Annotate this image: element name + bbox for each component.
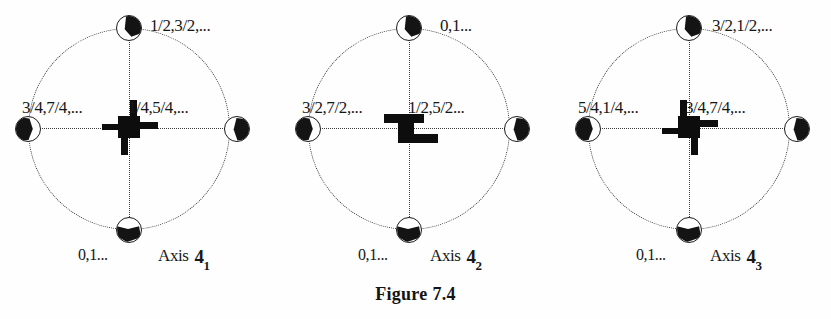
node-right [504, 116, 530, 142]
axis-caption-number: 41 [192, 246, 209, 267]
node-fill [397, 16, 421, 40]
label-left: 3/2,7/2,... [302, 98, 362, 118]
axis-caption-number: 43 [744, 246, 761, 267]
node-fill [576, 117, 600, 141]
node-top [116, 15, 142, 41]
diagram-axis-4-3: 3/2,1/2,... 5/4,1/4,... 3/4,7/4,... 0,1.… [560, 0, 831, 290]
node-fill [117, 16, 141, 40]
node-left [295, 116, 321, 142]
node-bottom [116, 217, 142, 243]
label-bottom: 0,1... [358, 246, 388, 264]
node-bottom [396, 217, 422, 243]
label-top-right: 0,1... [440, 16, 472, 36]
axis-caption-subscript: 3 [756, 258, 762, 273]
diagram-axis-4-1: 1/2,3/2,... 3/4,7/4,... 1/4,5/4,... 0,1.… [0, 0, 271, 290]
axis-caption-word: Axis [158, 246, 189, 265]
node-fill [785, 117, 809, 141]
circle-area [18, 18, 248, 240]
label-top-right: 1/2,3/2,... [150, 16, 210, 36]
node-fill [397, 218, 421, 242]
axis-caption: Axis 42 [430, 244, 482, 266]
label-right: 3/4,7/4,... [685, 98, 745, 118]
node-fill [677, 16, 701, 40]
node-fill [117, 218, 141, 242]
circle-area [578, 18, 808, 240]
node-right [224, 116, 250, 142]
node-fill [296, 117, 320, 141]
circle-area [298, 18, 528, 240]
node-fill [505, 117, 529, 141]
node-top [396, 15, 422, 41]
label-left: 5/4,1/4,... [578, 98, 638, 118]
node-bottom [676, 217, 702, 243]
node-fill [225, 117, 249, 141]
label-right: 1/4,5/4,... [128, 98, 188, 118]
label-left: 3/4,7/4,... [22, 98, 82, 118]
axis-caption: Axis 43 [710, 244, 762, 266]
figure-caption: Figure 7.4 [0, 284, 831, 305]
diagram-axis-4-2: 0,1... 3/2,7/2,... 1/2,5/2... 0,1... Axi… [280, 0, 551, 290]
label-bottom: 0,1... [78, 246, 108, 264]
axis-caption-number: 42 [464, 246, 481, 267]
axis-caption-word: Axis [430, 246, 461, 265]
axis-caption: Axis 41 [158, 244, 210, 266]
axis-caption-subscript: 2 [476, 258, 482, 273]
node-fill [677, 218, 701, 242]
label-top-right: 3/2,1/2,... [712, 16, 772, 36]
axis-caption-word: Axis [710, 246, 741, 265]
node-top [676, 15, 702, 41]
axis-caption-subscript: 1 [204, 258, 210, 273]
label-bottom: 0,1... [636, 246, 666, 264]
node-right [784, 116, 810, 142]
figure-7-4: 1/2,3/2,... 3/4,7/4,... 1/4,5/4,... 0,1.… [0, 0, 831, 319]
node-left [15, 116, 41, 142]
label-right: 1/2,5/2... [408, 98, 464, 118]
node-left [575, 116, 601, 142]
node-fill [16, 117, 40, 141]
